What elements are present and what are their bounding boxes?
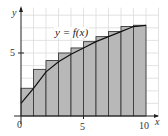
- bar: [46, 61, 59, 116]
- riemann-sum-plot: [0, 0, 168, 136]
- bar: [121, 27, 134, 116]
- bar: [71, 48, 84, 116]
- x-tick-label-10: 10: [139, 121, 149, 131]
- bar: [84, 42, 97, 116]
- bar: [109, 32, 122, 116]
- y-axis-arrow-icon: [19, 6, 23, 12]
- x-axis-label: x: [155, 117, 159, 127]
- x-tick-label-5: 5: [80, 122, 85, 132]
- bar: [34, 69, 47, 116]
- bar: [21, 88, 34, 116]
- y-axis-label: y: [12, 8, 16, 18]
- bar: [59, 53, 72, 116]
- function-label: y = f(x): [54, 27, 89, 38]
- y-tick-label-5: 5: [10, 48, 15, 58]
- bar: [134, 25, 147, 116]
- origin-label: 0: [17, 120, 22, 130]
- bar: [96, 37, 109, 116]
